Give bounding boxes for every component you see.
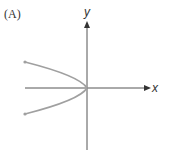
- x-axis: [25, 85, 151, 91]
- y-axis-arrow-icon: [84, 21, 90, 28]
- curve-endpoint-upper: [23, 60, 26, 63]
- curve-endpoint-lower: [23, 112, 26, 115]
- parabola-graph-figure: (A) y x: [0, 0, 171, 154]
- plot-area: [0, 0, 171, 154]
- x-axis-arrow-icon: [144, 85, 151, 91]
